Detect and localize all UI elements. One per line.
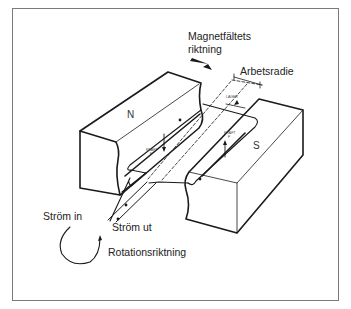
force-arrows	[164, 134, 225, 157]
current-out-label: Ström ut	[112, 221, 152, 233]
field-direction-arrow	[190, 58, 212, 70]
force-right-arrowhead	[223, 140, 227, 145]
rotation-direction-label: Rotationsriktning	[108, 246, 186, 258]
field-direction-label-2: riktning	[188, 43, 222, 55]
field-direction-label-1: Magnetfältets	[188, 30, 251, 42]
motor-diagram	[0, 0, 351, 309]
current-in-label: Ström in	[43, 210, 82, 222]
north-pole-label: N	[127, 109, 134, 120]
rotation-arrowhead	[98, 235, 102, 241]
current-dot-out	[117, 218, 120, 221]
bearing-label: LAGER	[226, 95, 238, 99]
working-radius-label: Arbetsradie	[240, 65, 294, 77]
coil-loop	[108, 104, 258, 222]
current-dot-n	[179, 119, 182, 122]
force-left-symbol: F	[150, 152, 152, 156]
bearing-arrowhead	[234, 100, 239, 105]
rotation-axis	[148, 80, 262, 180]
rotation-arrow	[60, 227, 100, 264]
current-dot-s	[199, 178, 202, 181]
south-pole-label: S	[253, 140, 260, 151]
force-right-symbol: F	[228, 135, 230, 139]
force-left-arrowhead	[162, 147, 166, 152]
current-dot-in	[125, 204, 128, 207]
